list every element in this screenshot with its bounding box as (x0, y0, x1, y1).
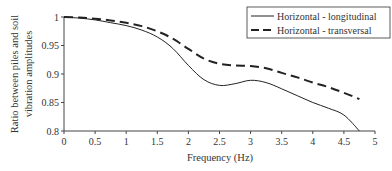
x-tick-label: 3.5 (275, 136, 288, 147)
x-tick-label: 1 (124, 136, 129, 147)
x-tick-label: 2 (186, 136, 191, 147)
y-tick-label: 0.8 (47, 126, 60, 137)
x-tick-label: 4.5 (338, 136, 351, 147)
legend-label-transversal: Horizontal - transversal (277, 25, 372, 36)
x-tick-label: 0 (62, 136, 67, 147)
y-tick-label: 0.85 (42, 97, 60, 108)
y-tick-label: 1 (54, 12, 59, 23)
x-tick-label: 5 (373, 136, 378, 147)
line-chart: Ratio between piles and soil vibration a… (0, 0, 392, 171)
x-tick-label: 2.5 (213, 136, 226, 147)
x-tick-label: 1.5 (151, 136, 164, 147)
y-axis-label-line-1: Ratio between piles and soil (9, 15, 20, 133)
x-tick-label: 4 (310, 136, 315, 147)
y-tick-label: 0.9 (47, 69, 60, 80)
y-axis-label-line-2: vibration amplitudes (23, 31, 34, 118)
x-tick-label: 0.5 (89, 136, 102, 147)
legend: Horizontal - longitudinal Horizontal - t… (247, 7, 390, 38)
legend-label-longitudinal: Horizontal - longitudinal (277, 11, 377, 22)
y-axis: 0.80.850.90.951 (42, 12, 65, 137)
x-tick-label: 3 (248, 136, 253, 147)
y-axis-label: Ratio between piles and soil vibration a… (9, 15, 34, 133)
x-axis-label: Frequency (Hz) (187, 152, 254, 164)
y-tick-label: 0.95 (42, 40, 60, 51)
x-axis: 00.511.522.533.544.55 (62, 131, 378, 147)
